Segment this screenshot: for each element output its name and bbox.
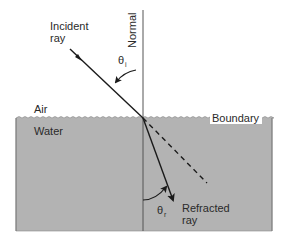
- water-label: Water: [34, 125, 63, 137]
- refracted-ray-label-2: ray: [182, 214, 198, 226]
- theta-i-subscript: i: [125, 61, 127, 68]
- incident-ray-label: Incident: [50, 20, 89, 32]
- refracted-ray-label: Refracted: [182, 202, 230, 214]
- normal-label: Normal: [126, 13, 138, 48]
- refraction-diagram: Incident ray Normal θ i Air Water Bounda…: [0, 0, 281, 241]
- theta-r-label: θ: [157, 204, 163, 216]
- theta-i-arc: [116, 70, 136, 82]
- theta-i-label: θ: [118, 54, 124, 66]
- incident-ray-label-2: ray: [50, 32, 66, 44]
- air-label: Air: [34, 103, 48, 115]
- boundary-label: Boundary: [212, 112, 260, 124]
